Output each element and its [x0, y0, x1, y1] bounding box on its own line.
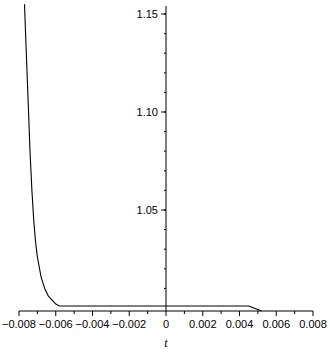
- y-tick-label: 1.10: [137, 106, 158, 118]
- x-tick-label: −0.006: [39, 318, 73, 330]
- y-tick-label: 1.15: [137, 8, 158, 20]
- x-tick-label: −0.002: [112, 318, 146, 330]
- x-tick-label: 0: [163, 318, 169, 330]
- x-axis-label: t: [164, 336, 168, 350]
- y-axis: 1.051.101.15: [137, 6, 166, 311]
- line-chart: 1.051.101.15 −0.008−0.006−0.004−0.00200.…: [0, 0, 330, 355]
- data-series: [25, 4, 262, 311]
- y-tick-label: 1.05: [137, 204, 158, 216]
- x-tick-label: 0.008: [299, 318, 327, 330]
- x-tick-label: 0.004: [226, 318, 254, 330]
- x-tick-label: −0.004: [76, 318, 110, 330]
- x-tick-label: 0.002: [189, 318, 217, 330]
- x-axis: −0.008−0.006−0.004−0.00200.0020.0040.006…: [2, 311, 327, 330]
- x-tick-label: −0.008: [2, 318, 36, 330]
- series-line: [25, 4, 262, 311]
- x-tick-label: 0.006: [262, 318, 290, 330]
